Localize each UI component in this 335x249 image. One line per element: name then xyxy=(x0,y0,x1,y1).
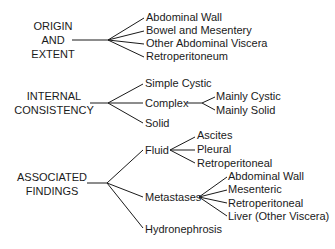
root-line: EXTENT xyxy=(30,47,76,61)
node-abdominal-wall: Abdominal Wall xyxy=(146,11,222,23)
root-line: ASSOCIATED xyxy=(16,170,88,184)
node-other-abdominal-viscera: Other Abdominal Viscera xyxy=(146,37,267,49)
root-line: AND xyxy=(30,33,76,47)
node-fluid: Fluid xyxy=(145,144,169,156)
node-solid: Solid xyxy=(145,117,169,129)
root-line: ORIGIN xyxy=(30,19,76,33)
root-line: CONSISTENCY xyxy=(14,103,94,117)
root-line: INTERNAL xyxy=(14,89,94,103)
node-met-mesenteric: Mesenteric xyxy=(228,183,282,195)
node-simple-cystic: Simple Cystic xyxy=(145,77,212,89)
node-ascites: Ascites xyxy=(197,129,232,141)
node-metastases: Metastases xyxy=(145,191,201,203)
node-mainly-solid: Mainly Solid xyxy=(216,104,275,116)
node-bowel-mesentery: Bowel and Mesentery xyxy=(146,24,252,36)
node-pleural: Pleural xyxy=(197,143,231,155)
node-met-retroperitoneal: Retroperitoneal xyxy=(228,197,303,209)
node-retroperitoneum: Retroperitoneum xyxy=(146,50,228,62)
node-mainly-cystic: Mainly Cystic xyxy=(216,90,281,102)
node-hydronephrosis: Hydronephrosis xyxy=(145,223,222,235)
node-complex: Complex xyxy=(145,97,188,109)
root-associated-findings: ASSOCIATED FINDINGS xyxy=(16,170,88,198)
root-line: FINDINGS xyxy=(16,184,88,198)
node-met-abdominal-wall: Abdominal Wall xyxy=(228,170,304,182)
root-origin-extent: ORIGIN AND EXTENT xyxy=(30,19,76,61)
node-met-liver: Liver (Other Viscera) xyxy=(228,210,329,222)
root-internal-consistency: INTERNAL CONSISTENCY xyxy=(14,89,94,117)
node-retroperitoneal-fluid: Retroperitoneal xyxy=(197,157,272,169)
